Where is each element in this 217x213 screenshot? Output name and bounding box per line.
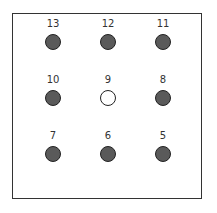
node-label: 13 bbox=[33, 18, 73, 30]
filled-circle-icon bbox=[45, 34, 61, 50]
filled-circle-icon bbox=[155, 90, 171, 106]
filled-circle-icon bbox=[155, 34, 171, 50]
filled-circle-icon bbox=[45, 146, 61, 162]
node-label: 11 bbox=[143, 18, 183, 30]
node-13: 13 bbox=[33, 18, 73, 58]
filled-circle-icon bbox=[155, 146, 171, 162]
node-6: 6 bbox=[88, 130, 128, 170]
node-11: 11 bbox=[143, 18, 183, 58]
node-label: 9 bbox=[88, 74, 128, 86]
node-label: 7 bbox=[33, 130, 73, 142]
empty-circle-icon bbox=[100, 90, 116, 106]
node-5: 5 bbox=[143, 130, 183, 170]
node-8: 8 bbox=[143, 74, 183, 114]
node-label: 6 bbox=[88, 130, 128, 142]
node-10: 10 bbox=[33, 74, 73, 114]
node-label: 8 bbox=[143, 74, 183, 86]
node-12: 12 bbox=[88, 18, 128, 58]
filled-circle-icon bbox=[45, 90, 61, 106]
node-9: 9 bbox=[88, 74, 128, 114]
node-label: 12 bbox=[88, 18, 128, 30]
node-label: 5 bbox=[143, 130, 183, 142]
filled-circle-icon bbox=[100, 34, 116, 50]
node-label: 10 bbox=[33, 74, 73, 86]
filled-circle-icon bbox=[100, 146, 116, 162]
node-7: 7 bbox=[33, 130, 73, 170]
